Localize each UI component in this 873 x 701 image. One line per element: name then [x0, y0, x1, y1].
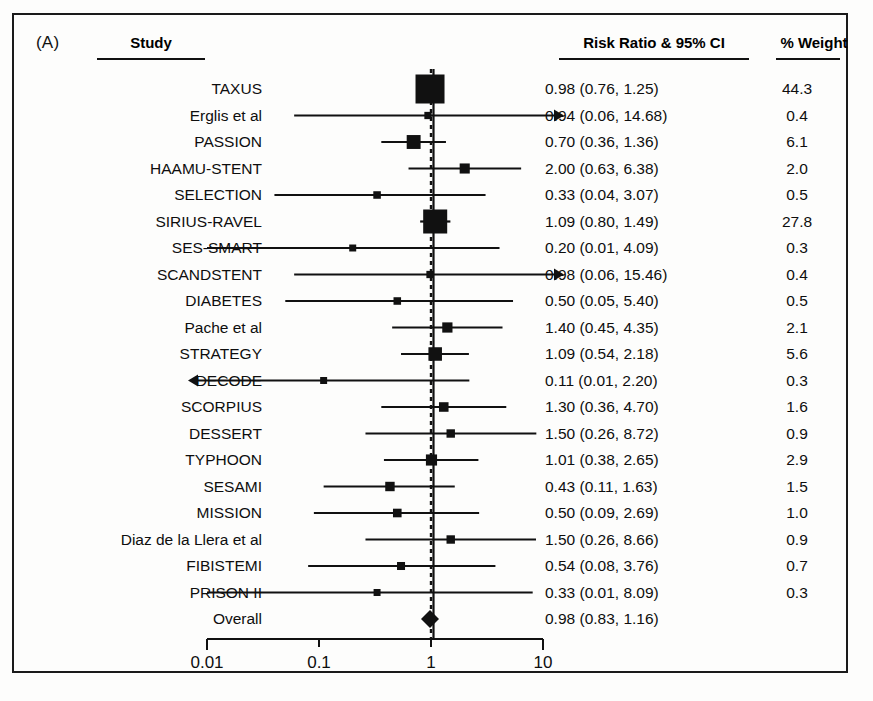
weight-value: 0.4 [754, 103, 840, 129]
forest-plot-row: HAAMU-STENT2.00 (0.63, 6.38)2.0 [14, 156, 850, 182]
weight-value: 0.3 [754, 368, 840, 394]
forest-plot-row: DECODE0.11 (0.01, 2.20)0.3 [14, 368, 850, 394]
study-label: TYPHOON [14, 447, 262, 473]
weight-value: 0.5 [754, 182, 840, 208]
study-label: SCANDSTENT [14, 262, 262, 288]
weight-value: 6.1 [754, 129, 840, 155]
forest-plot-row: SIRIUS-RAVEL1.09 (0.80, 1.49)27.8 [14, 209, 850, 235]
risk-ratio-value: 0.98 (0.06, 15.46) [545, 262, 745, 288]
column-header-study-rule [97, 58, 205, 60]
study-label: Pache et al [14, 315, 262, 341]
weight-value: 2.0 [754, 156, 840, 182]
forest-plot-row: DIABETES0.50 (0.05, 5.40)0.5 [14, 288, 850, 314]
risk-ratio-value: 1.40 (0.45, 4.35) [545, 315, 745, 341]
risk-ratio-value: 0.43 (0.11, 1.63) [545, 474, 745, 500]
risk-ratio-value: 0.20 (0.01, 4.09) [545, 235, 745, 261]
weight-value: 1.6 [754, 394, 840, 420]
forest-plot-row: FIBISTEMI0.54 (0.08, 3.76)0.7 [14, 553, 850, 579]
column-header-weight-rule [776, 58, 840, 60]
risk-ratio-value: 0.54 (0.08, 3.76) [545, 553, 745, 579]
study-label: SES-SMART [14, 235, 262, 261]
forest-plot-panel: (A) Study Risk Ratio & 95% CI % Weight T… [12, 13, 848, 673]
forest-plot-row: PASSION0.70 (0.36, 1.36)6.1 [14, 129, 850, 155]
risk-ratio-value: 0.33 (0.01, 8.09) [545, 580, 745, 606]
forest-plot-row: Erglis et al0.94 (0.06, 14.68)0.4 [14, 103, 850, 129]
weight-value: 2.9 [754, 447, 840, 473]
weight-value: 1.5 [754, 474, 840, 500]
forest-plot-row: SCANDSTENT0.98 (0.06, 15.46)0.4 [14, 262, 850, 288]
weight-value: 5.6 [754, 341, 840, 367]
study-label: Erglis et al [14, 103, 262, 129]
column-header-weight-label: % Weight [780, 34, 847, 51]
study-label: TAXUS [14, 76, 262, 102]
risk-ratio-value: 1.50 (0.26, 8.66) [545, 527, 745, 553]
risk-ratio-value: 1.30 (0.36, 4.70) [545, 394, 745, 420]
forest-plot-row: SELECTION0.33 (0.04, 3.07)0.5 [14, 182, 850, 208]
risk-ratio-value: 1.50 (0.26, 8.72) [545, 421, 745, 447]
study-label: DECODE [14, 368, 262, 394]
weight-value: 0.4 [754, 262, 840, 288]
forest-plot-row: SCORPIUS1.30 (0.36, 4.70)1.6 [14, 394, 850, 420]
study-label: SESAMI [14, 474, 262, 500]
forest-plot-figure: (A) Study Risk Ratio & 95% CI % Weight T… [0, 0, 873, 701]
column-header-study: Study [89, 34, 213, 55]
column-header-risk-ratio-label: Risk Ratio & 95% CI [583, 34, 725, 51]
forest-plot-row: TAXUS0.98 (0.76, 1.25)44.3 [14, 76, 850, 102]
weight-value: 0.3 [754, 235, 840, 261]
forest-plot-row: TYPHOON1.01 (0.38, 2.65)2.9 [14, 447, 850, 473]
risk-ratio-value: 0.50 (0.05, 5.40) [545, 288, 745, 314]
forest-plot-row: PRISON II0.33 (0.01, 8.09)0.3 [14, 580, 850, 606]
study-label: DESSERT [14, 421, 262, 447]
column-header-weight: % Weight [766, 34, 862, 55]
risk-ratio-value: 0.98 (0.83, 1.16) [545, 606, 745, 632]
panel-letter: (A) [36, 33, 59, 53]
x-axis-layer [207, 639, 543, 650]
weight-value: 0.9 [754, 527, 840, 553]
weight-value: 27.8 [754, 209, 840, 235]
study-label: HAAMU-STENT [14, 156, 262, 182]
forest-plot-row: MISSION0.50 (0.09, 2.69)1.0 [14, 500, 850, 526]
weight-value: 0.9 [754, 421, 840, 447]
forest-plot-row: Pache et al1.40 (0.45, 4.35)2.1 [14, 315, 850, 341]
forest-plot-row: DESSERT1.50 (0.26, 8.72)0.9 [14, 421, 850, 447]
forest-plot-row: SESAMI0.43 (0.11, 1.63)1.5 [14, 474, 850, 500]
study-label: SCORPIUS [14, 394, 262, 420]
study-label: DIABETES [14, 288, 262, 314]
study-label: MISSION [14, 500, 262, 526]
risk-ratio-value: 0.11 (0.01, 2.20) [545, 368, 745, 394]
column-header-risk-ratio: Risk Ratio & 95% CI [557, 34, 751, 55]
forest-plot-row: Overall0.98 (0.83, 1.16) [14, 606, 850, 632]
x-axis-tick-label: 10 [503, 654, 583, 671]
column-header-risk-ratio-rule [559, 58, 749, 60]
study-label: SIRIUS-RAVEL [14, 209, 262, 235]
weight-value: 44.3 [754, 76, 840, 102]
risk-ratio-value: 1.01 (0.38, 2.65) [545, 447, 745, 473]
weight-value: 1.0 [754, 500, 840, 526]
forest-plot-row: Diaz de la Llera et al1.50 (0.26, 8.66)0… [14, 527, 850, 553]
column-header-study-label: Study [130, 34, 172, 51]
risk-ratio-value: 0.94 (0.06, 14.68) [545, 103, 745, 129]
x-axis-tick-label: 0.01 [167, 654, 247, 671]
forest-plot-row: SES-SMART0.20 (0.01, 4.09)0.3 [14, 235, 850, 261]
x-axis-tick-label: 1 [391, 654, 471, 671]
study-label: STRATEGY [14, 341, 262, 367]
risk-ratio-value: 0.98 (0.76, 1.25) [545, 76, 745, 102]
forest-plot-row: STRATEGY1.09 (0.54, 2.18)5.6 [14, 341, 850, 367]
study-label: PASSION [14, 129, 262, 155]
study-label: FIBISTEMI [14, 553, 262, 579]
risk-ratio-value: 1.09 (0.80, 1.49) [545, 209, 745, 235]
risk-ratio-value: 0.50 (0.09, 2.69) [545, 500, 745, 526]
weight-value: 0.7 [754, 553, 840, 579]
weight-value: 0.5 [754, 288, 840, 314]
risk-ratio-value: 0.70 (0.36, 1.36) [545, 129, 745, 155]
risk-ratio-value: 1.09 (0.54, 2.18) [545, 341, 745, 367]
risk-ratio-value: 2.00 (0.63, 6.38) [545, 156, 745, 182]
weight-value: 0.3 [754, 580, 840, 606]
study-label: PRISON II [14, 580, 262, 606]
risk-ratio-value: 0.33 (0.04, 3.07) [545, 182, 745, 208]
study-label: Diaz de la Llera et al [14, 527, 262, 553]
x-axis-tick-label: 0.1 [279, 654, 359, 671]
study-label: Overall [14, 606, 262, 632]
study-label: SELECTION [14, 182, 262, 208]
weight-value: 2.1 [754, 315, 840, 341]
